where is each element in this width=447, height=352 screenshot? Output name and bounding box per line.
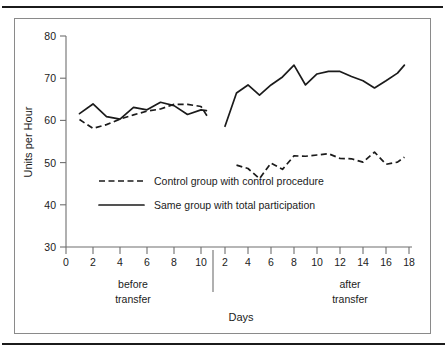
segment-label-after-line1: after: [339, 278, 361, 290]
x-tick-label: 0: [63, 256, 69, 268]
segment-label-before: before transfer: [115, 278, 151, 305]
x-tick-label: 2: [90, 256, 96, 268]
x-tick-label: 10: [311, 256, 323, 268]
series-line-control-before: [80, 104, 208, 128]
y-tick-label: 80: [44, 30, 56, 42]
y-axis-tick-labels: 80 70 60 50 40 30: [44, 30, 56, 253]
chart-legend: Control group with control procedure Sam…: [99, 175, 324, 211]
y-axis-title: Units per Hour: [22, 106, 34, 177]
y-tick-label: 60: [44, 114, 56, 126]
x-tick-label: 14: [357, 256, 369, 268]
x-tick-label: 8: [291, 256, 297, 268]
x-axis-ticks-before: [66, 247, 201, 254]
top-divider-rule: [2, 6, 443, 8]
y-tick-label: 70: [44, 72, 56, 84]
legend-label-participation: Same group with total participation: [154, 199, 315, 211]
x-axis-tick-labels-before: 0 2 4 6 8 10: [63, 256, 207, 268]
line-chart: 80 70 60 50 40 30 Units per Hour 0 2 4 6…: [14, 18, 431, 334]
x-tick-label: 12: [334, 256, 346, 268]
y-tick-label: 30: [44, 241, 56, 253]
x-tick-label: 6: [268, 256, 274, 268]
x-tick-label: 16: [380, 256, 392, 268]
segment-label-after-line2: transfer: [332, 293, 368, 305]
x-axis-ticks-after: [225, 247, 409, 254]
x-tick-label: 2: [222, 256, 228, 268]
x-tick-label: 4: [117, 256, 123, 268]
segment-label-before-line1: before: [118, 278, 148, 290]
series-line-total-participation-after: [225, 65, 404, 126]
x-tick-label: 18: [403, 256, 415, 268]
figure-page: 80 70 60 50 40 30 Units per Hour 0 2 4 6…: [0, 0, 447, 352]
x-tick-label: 4: [245, 256, 251, 268]
y-tick-label: 40: [44, 199, 56, 211]
x-axis-title: Days: [228, 311, 254, 323]
x-tick-label: 10: [195, 256, 207, 268]
y-axis-ticks: [60, 36, 66, 247]
x-axis-tick-labels-after: 2 4 6 8 10 12 14 16 18: [222, 256, 415, 268]
bottom-divider-rule: [2, 343, 445, 345]
x-tick-label: 8: [171, 256, 177, 268]
legend-label-control: Control group with control procedure: [154, 175, 324, 187]
x-tick-label: 6: [144, 256, 150, 268]
segment-label-before-line2: transfer: [115, 293, 151, 305]
y-tick-label: 50: [44, 157, 56, 169]
segment-label-after: after transfer: [332, 278, 368, 305]
